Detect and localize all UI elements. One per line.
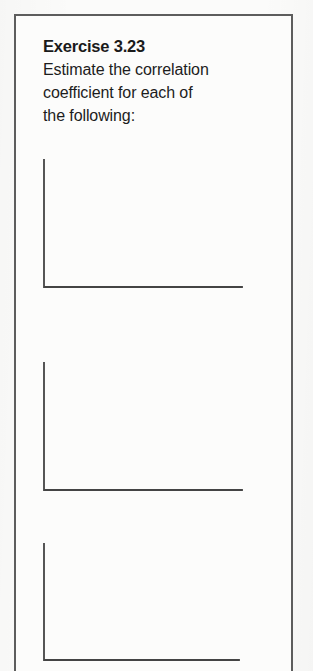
prompt-line-3: the following:: [43, 104, 273, 127]
plot-a-axes: [44, 160, 242, 287]
scatter-plot-c-canvas: [30, 540, 245, 664]
exercise-text-block: Exercise 3.23 Estimate the correlation c…: [43, 36, 273, 127]
scatter-plot-a: [30, 156, 245, 291]
scatter-plot-c: [30, 540, 245, 664]
scatter-plot-a-canvas: [30, 156, 245, 291]
exercise-box: Exercise 3.23 Estimate the correlation c…: [14, 14, 293, 671]
plot-c-axes: [44, 544, 239, 660]
prompt-line-2: coefficient for each of: [43, 81, 273, 104]
page-title: Exercise 3.23: [43, 36, 273, 56]
scanned-page: Exercise 3.23 Estimate the correlation c…: [0, 0, 313, 671]
prompt-line-1: Estimate the correlation: [43, 58, 273, 81]
scatter-plot-b: [30, 359, 245, 494]
scatter-plot-b-canvas: [30, 359, 245, 494]
plot-b-axes: [44, 363, 242, 490]
